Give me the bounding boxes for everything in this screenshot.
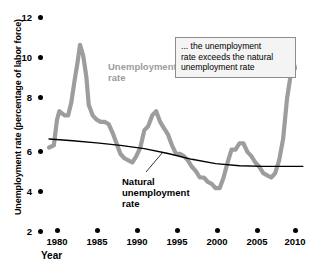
x-tick-dot [55, 228, 60, 233]
series-label-natural-line1: Natural [122, 176, 190, 187]
x-tick-label: 2005 [237, 236, 277, 247]
x-tick-label: 2000 [197, 236, 237, 247]
x-tick-label: 1990 [117, 236, 157, 247]
x-tick-label: 1980 [37, 236, 77, 247]
x-tick-dot [255, 228, 260, 233]
x-tick-dot [175, 228, 180, 233]
x-tick-dot [215, 228, 220, 233]
x-tick-dot [293, 228, 298, 233]
natural-label-leader-line [146, 152, 163, 172]
unemployment-rate-chart: Unemployment rate (percentage of labor f… [0, 0, 314, 271]
series-label-unemployment-line2: rate [108, 72, 177, 83]
series-label-unemployment-line1: Unemployment [108, 61, 177, 72]
series-label-natural: Natural unemployment rate [122, 176, 190, 209]
series-label-unemployment: Unemployment rate [108, 61, 177, 83]
x-tick-dot [95, 228, 100, 233]
annotation-line-1: ... the unemployment [181, 41, 290, 52]
x-tick-dot [135, 228, 140, 233]
x-tick-label: 1995 [157, 236, 197, 247]
x-tick-label: 1985 [77, 236, 117, 247]
x-axis-title: Year [41, 250, 62, 261]
annotation-line-2: rate exceeds the natural [181, 52, 290, 63]
annotation-line-3: unemployment rate [181, 62, 290, 73]
annotation-callout: ... the unemployment rate exceeds the na… [175, 37, 296, 78]
series-label-natural-line2: unemployment [122, 187, 190, 198]
x-tick-label: 2010 [275, 236, 314, 247]
series-label-natural-line3: rate [122, 198, 190, 209]
